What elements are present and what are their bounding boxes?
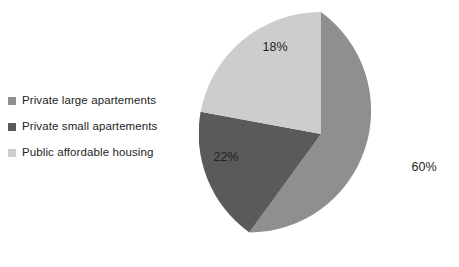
square-swatch-icon: [8, 123, 16, 131]
legend-item-private-large-apartements[interactable]: Private large apartements: [8, 88, 198, 114]
pie-slice-label-public-affordable-housing: 18%: [262, 40, 287, 54]
pie-chart-svg: 60% 22% 18%: [199, 12, 443, 256]
pie-slice-label-private-small-apartements: 22%: [213, 150, 238, 164]
square-swatch-icon: [8, 149, 16, 157]
pie-chart-figure: Private large apartements Private small …: [0, 0, 459, 267]
legend-item-label: Private small apartements: [22, 121, 157, 133]
pie-chart-plot-area: 60% 22% 18%: [199, 12, 443, 256]
legend-item-public-affordable-housing[interactable]: Public affordable housing: [8, 140, 198, 166]
pie-slice-label-private-large-apartements: 60%: [411, 160, 436, 174]
chart-legend: Private large apartements Private small …: [8, 88, 198, 166]
square-swatch-icon: [8, 97, 16, 105]
legend-item-label: Private large apartements: [22, 95, 156, 107]
legend-item-label: Public affordable housing: [22, 147, 153, 159]
legend-item-private-small-apartements[interactable]: Private small apartements: [8, 114, 198, 140]
